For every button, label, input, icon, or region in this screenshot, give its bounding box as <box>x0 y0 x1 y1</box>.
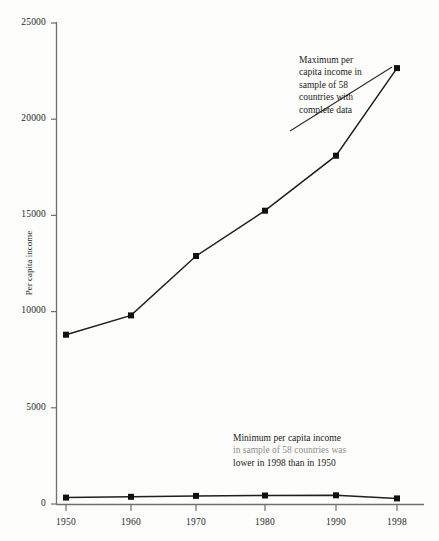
x-tick-label-1950: 1950 <box>41 517 91 527</box>
annotation-maximum-line-3: sample of 58 <box>299 79 409 91</box>
x-tick-label-1990: 1990 <box>311 517 361 527</box>
y-tick-label-20000: 20000 <box>0 113 46 123</box>
y-tick-label-25000: 25000 <box>0 17 46 27</box>
x-tick-label-1980: 1980 <box>240 517 290 527</box>
annotation-maximum-line-2: capita income in <box>299 66 409 78</box>
x-tick-label-1970: 1970 <box>171 517 221 527</box>
y-axis-ticks <box>51 23 56 504</box>
annotation-maximum-line-4: countries with <box>299 91 409 103</box>
series-line-minimum <box>66 495 397 498</box>
annotation-maximum-line-5: complete data <box>299 104 409 116</box>
x-axis-ticks <box>66 505 397 512</box>
x-tick-label-1960: 1960 <box>106 517 156 527</box>
annotation-minimum-line-1: Minimum per capita income <box>233 432 438 444</box>
annotation-maximum-line-1: Maximum per <box>299 54 409 66</box>
x-tick-label-1998: 1998 <box>372 517 422 527</box>
annotation-maximum: Maximum per capita income in sample of 5… <box>299 54 409 116</box>
annotation-minimum-line-3: lower in 1998 than in 1950 <box>233 457 438 469</box>
annotation-minimum: Minimum per capita income in sample of 5… <box>233 432 438 469</box>
y-tick-label-0: 0 <box>0 498 46 508</box>
y-tick-label-5000: 5000 <box>0 402 46 412</box>
chart-figure: 25000 20000 15000 10000 5000 0 1950 1960… <box>0 0 439 541</box>
annotation-minimum-line-2: in sample of 58 countries was <box>233 444 438 456</box>
y-tick-label-15000: 15000 <box>0 209 46 219</box>
y-tick-label-10000: 10000 <box>0 305 46 315</box>
y-axis-title: Per capita income <box>24 203 34 323</box>
